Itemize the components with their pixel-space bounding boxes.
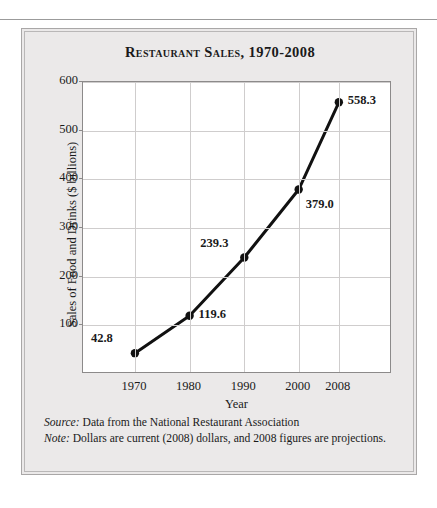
source-line: Source: Data from the National Restauran… (44, 415, 404, 431)
gridline-horizontal (83, 131, 390, 132)
gridline-horizontal (83, 179, 390, 180)
gridline-horizontal (83, 228, 390, 229)
data-point-label: 379.0 (306, 197, 334, 212)
x-axis-ticks: 19701980199020002008 (82, 379, 391, 397)
note-text: Dollars are current (2008) dollars, and … (70, 432, 386, 445)
gridline-horizontal (83, 82, 390, 83)
x-tick-label: 1990 (213, 379, 273, 394)
y-axis-title: Sales of Food and Drinks ($ billions) (65, 89, 80, 381)
x-tick-label: 1980 (159, 379, 219, 394)
y-tick-label: 600 (38, 73, 78, 88)
x-tick-label: 1970 (104, 379, 164, 394)
gridline-vertical (190, 82, 191, 372)
gridline-vertical (135, 82, 136, 372)
figure-footnotes: Source: Data from the National Restauran… (44, 415, 404, 447)
gridline-horizontal (83, 325, 390, 326)
source-label: Source: (44, 416, 80, 429)
data-point-label: 119.6 (199, 307, 226, 322)
figure-box: Restaurant Sales, 1970-2008 100200300400… (21, 28, 417, 475)
note-line: Note: Dollars are current (2008) dollars… (44, 431, 404, 447)
gridline-vertical (339, 82, 340, 372)
page-top-rule (0, 19, 437, 20)
data-point-label: 239.3 (200, 236, 228, 251)
source-text: Data from the National Restaurant Associ… (80, 416, 300, 429)
data-point-label: 558.3 (348, 93, 376, 108)
x-axis-title: Year (82, 397, 391, 412)
chart-title: Restaurant Sales, 1970-2008 (22, 44, 418, 61)
data-point-label: 42.8 (91, 331, 113, 346)
gridline-horizontal (83, 277, 390, 278)
gridline-vertical (244, 82, 245, 372)
plot-area: 42.8119.6239.3379.0558.3 (82, 81, 391, 373)
figure-page: Restaurant Sales, 1970-2008 100200300400… (0, 0, 437, 508)
gridline-vertical (299, 82, 300, 372)
x-tick-label: 2008 (308, 379, 368, 394)
note-label: Note: (44, 432, 70, 445)
